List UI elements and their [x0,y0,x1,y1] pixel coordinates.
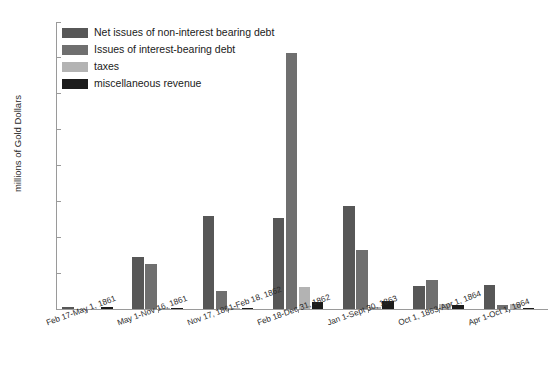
legend-swatch-icon [62,28,88,38]
bar [484,285,496,309]
bar-group [413,22,464,309]
bar-group [343,22,394,309]
bar [203,216,215,309]
y-axis-title: millions of Gold Dollars [12,64,23,224]
legend-swatch-icon [62,62,88,72]
legend-label: Net issues of non-interest bearing debt [94,27,274,38]
legend-swatch-icon [62,79,88,89]
bar [242,308,254,309]
legend-label: Issues of interest-bearing debt [94,44,235,55]
bar [413,286,425,309]
bar [286,53,298,310]
bar [171,308,183,309]
bar [343,206,355,309]
bar [145,264,157,309]
legend-swatch-icon [62,45,88,55]
bar [132,257,144,309]
bar [356,250,368,309]
bar-group [273,22,324,309]
legend-label: taxes [94,61,119,72]
bar [523,308,535,309]
legend-label: miscellaneous revenue [94,78,201,89]
bar-chart: millions of Gold Dollars 020406080100120… [0,0,554,381]
bar [101,307,113,309]
legend-item: Issues of interest-bearing debt [62,42,274,57]
legend-item: Net issues of non-interest bearing debt [62,25,274,40]
chart-legend: Net issues of non-interest bearing debtI… [62,25,274,93]
legend-item: taxes [62,59,274,74]
legend-item: miscellaneous revenue [62,76,274,91]
bar-group [484,22,535,309]
